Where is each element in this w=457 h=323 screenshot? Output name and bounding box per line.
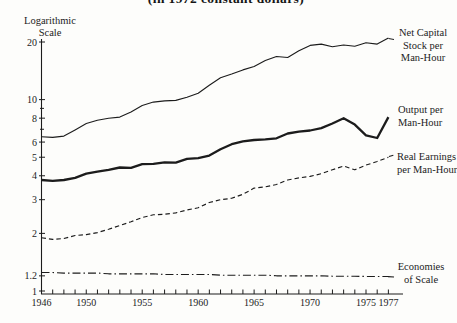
x-tick-label-1955: 1955: [132, 297, 152, 308]
y-tick-label-10: 10: [27, 94, 37, 105]
y-tick-label-4: 4: [32, 170, 37, 181]
x-tick-label-1970: 1970: [300, 297, 320, 308]
y-tick-label-6: 6: [32, 137, 37, 148]
series-label-real-earnings: Real Earnings per Man-Hour: [397, 151, 457, 176]
y-tick-label-2: 2: [32, 228, 37, 239]
y-tick-label-1.2: 1.2: [25, 270, 38, 281]
y-tick-label-8: 8: [32, 113, 37, 124]
series-label-line: Real Earnings: [397, 151, 457, 164]
series-label-economies-of-scale: Economies of Scale: [394, 261, 448, 286]
series-line-output: [42, 117, 389, 181]
y-tick-label-1: 1: [32, 286, 37, 297]
series-line-real_earnings: [42, 157, 389, 239]
x-tick-label-1946: 1946: [32, 297, 52, 308]
x-tick-label-1960: 1960: [188, 297, 208, 308]
x-tick-label-1975: 1975: [356, 297, 376, 308]
x-tick-label-1977: 1977: [378, 297, 398, 308]
y-tick-label-20: 20: [27, 37, 37, 48]
series-label-line: Economies: [394, 261, 448, 274]
x-tick-label-1965: 1965: [244, 297, 264, 308]
series-label-line: Net Capital: [393, 27, 453, 40]
y-tick-label-5: 5: [32, 152, 37, 163]
y-tick-label-3: 3: [32, 194, 37, 205]
series-label-line: Stock per: [393, 40, 453, 53]
series-label-line: of Scale: [394, 274, 448, 287]
series-label-line: Output per: [398, 104, 443, 117]
series-line-economies: [42, 273, 389, 277]
series-label-line: Man-Hour: [398, 117, 443, 130]
series-label-line: per Man-Hour: [397, 164, 457, 177]
series-leader-real_earnings: [389, 155, 396, 157]
series-label-output-per-man-hour: Output per Man-Hour: [398, 104, 443, 129]
x-tick-label-1950: 1950: [76, 297, 96, 308]
series-label-line: Man-Hour: [393, 52, 453, 65]
series-label-net-capital-stock: Net Capital Stock per Man-Hour: [393, 27, 453, 65]
